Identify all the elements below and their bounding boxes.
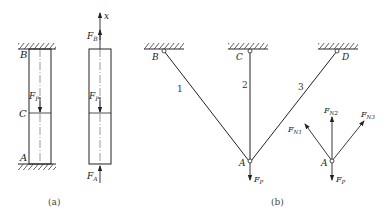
pin-b [162, 49, 166, 53]
figure-b-free-body: FN1 FN2 FN3 A FP [287, 106, 375, 185]
label-member-1: 1 [177, 84, 183, 94]
label-fa: FA [86, 171, 98, 182]
free-label-fp: FP [88, 91, 100, 102]
support-d-hatch [318, 43, 358, 49]
diagram-canvas: B C A FP x FB FP FA (a) [0, 0, 388, 220]
figure-a-free-body: x FB FP FA [86, 11, 111, 183]
support-c-hatch [228, 43, 268, 49]
label-c: C [19, 108, 27, 119]
caption-a: (a) [48, 197, 60, 207]
force-fn3-arrow [332, 121, 364, 161]
pin-c [248, 49, 252, 53]
label-load-fp: FP [253, 175, 264, 185]
label-support-c: C [236, 52, 243, 62]
label-fn1: FN1 [287, 125, 302, 135]
label-b: B [19, 49, 27, 60]
label-joint-a: A [238, 158, 246, 168]
pin-d [335, 49, 339, 53]
label-fn3: FN3 [360, 110, 375, 120]
label-member-3: 3 [298, 82, 304, 92]
free-label-joint-a: A [320, 158, 328, 168]
member-1 [164, 51, 249, 161]
label-support-b: B [151, 52, 159, 62]
label-fp: FP [28, 91, 40, 102]
label-a: A [19, 152, 27, 163]
free-label-load-fp: FP [335, 175, 346, 185]
pin-a [248, 159, 252, 163]
force-fn1-arrow [305, 124, 332, 161]
bottom-wall-hatch [18, 164, 56, 170]
label-support-d: D [341, 52, 349, 62]
label-member-2: 2 [242, 80, 248, 90]
mechanics-diagram: B C A FP x FB FP FA (a) [0, 0, 388, 220]
axis-x-label: x [104, 11, 109, 21]
figure-a-fixed-bar: B C A FP [18, 43, 56, 170]
label-fn2: FN2 [323, 106, 338, 116]
support-b-hatch [144, 43, 184, 49]
caption-b: (b) [271, 197, 284, 207]
free-pin-a [330, 159, 334, 163]
label-fb: FB [86, 31, 98, 42]
